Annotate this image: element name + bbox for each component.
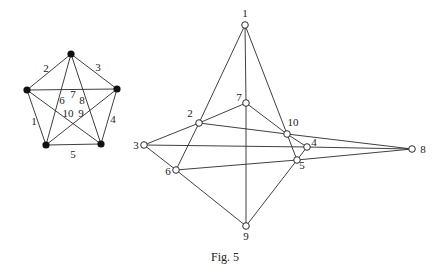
- k5-vertex-right: [113, 85, 120, 92]
- figure-caption: Fig. 5: [211, 250, 239, 264]
- petersen-edges: [144, 25, 412, 226]
- k5-edge-label: 2: [43, 62, 49, 74]
- vertex-label-3: 3: [133, 139, 139, 151]
- k5-edge-label: 10: [63, 107, 75, 119]
- edge-2-7: [199, 103, 246, 123]
- k5-edge-label: 1: [31, 115, 37, 127]
- vertex-label-10: 10: [288, 116, 300, 128]
- edge-1-2: [199, 25, 245, 123]
- vertex-3: [141, 142, 148, 149]
- k5-edge-label: 9: [78, 107, 84, 119]
- k5-vertex-top: [67, 50, 74, 57]
- vertex-4: [304, 144, 311, 151]
- edge-1-7: [245, 25, 246, 103]
- edge-2-10: [199, 123, 287, 134]
- vertex-2: [196, 120, 203, 127]
- k5-edge-label: 4: [110, 113, 116, 125]
- edge-2-6: [176, 123, 199, 170]
- vertex-label-6: 6: [165, 165, 171, 177]
- k5-vertex-bottom-right: [97, 140, 104, 147]
- vertex-10: [284, 131, 291, 138]
- edge-3-6: [144, 145, 176, 170]
- k5-edge-3: [71, 54, 117, 89]
- vertex-8: [409, 146, 416, 153]
- vertex-6: [173, 167, 180, 174]
- vertex-1: [242, 22, 249, 29]
- vertex-label-2: 2: [187, 107, 193, 119]
- edge-6-9: [176, 170, 246, 226]
- vertex-label-1: 1: [242, 7, 248, 19]
- k5-edge-label: 6: [59, 94, 65, 106]
- edge-6-5: [176, 160, 297, 170]
- k5-edge-label: 7: [70, 88, 76, 100]
- vertex-label-7: 7: [236, 91, 242, 103]
- petersen-vertex-labels: 12345678910: [133, 7, 426, 242]
- edge-9-5: [246, 160, 297, 226]
- k5-edge-2: [27, 54, 71, 90]
- k5-edge-label: 3: [95, 61, 101, 73]
- vertex-label-8: 8: [420, 143, 426, 155]
- vertex-label-5: 5: [299, 159, 305, 171]
- k5-vertex-bottom-left: [42, 141, 49, 148]
- petersen-vertices: [141, 22, 416, 230]
- vertex-7: [243, 100, 250, 107]
- figure-canvas: 12345678109 12345678910 Fig. 5: [0, 0, 443, 272]
- k5-edge-label: 8: [79, 94, 85, 106]
- edge-3-2: [144, 123, 199, 145]
- k5-edge-label: 5: [70, 148, 76, 160]
- k5-edge-5: [46, 144, 101, 145]
- edge-3-4: [144, 145, 307, 147]
- edge-5-8: [297, 149, 412, 160]
- vertex-9: [243, 223, 250, 230]
- vertex-label-9: 9: [243, 230, 249, 242]
- vertex-label-4: 4: [311, 136, 317, 148]
- k5-vertex-left: [23, 86, 30, 93]
